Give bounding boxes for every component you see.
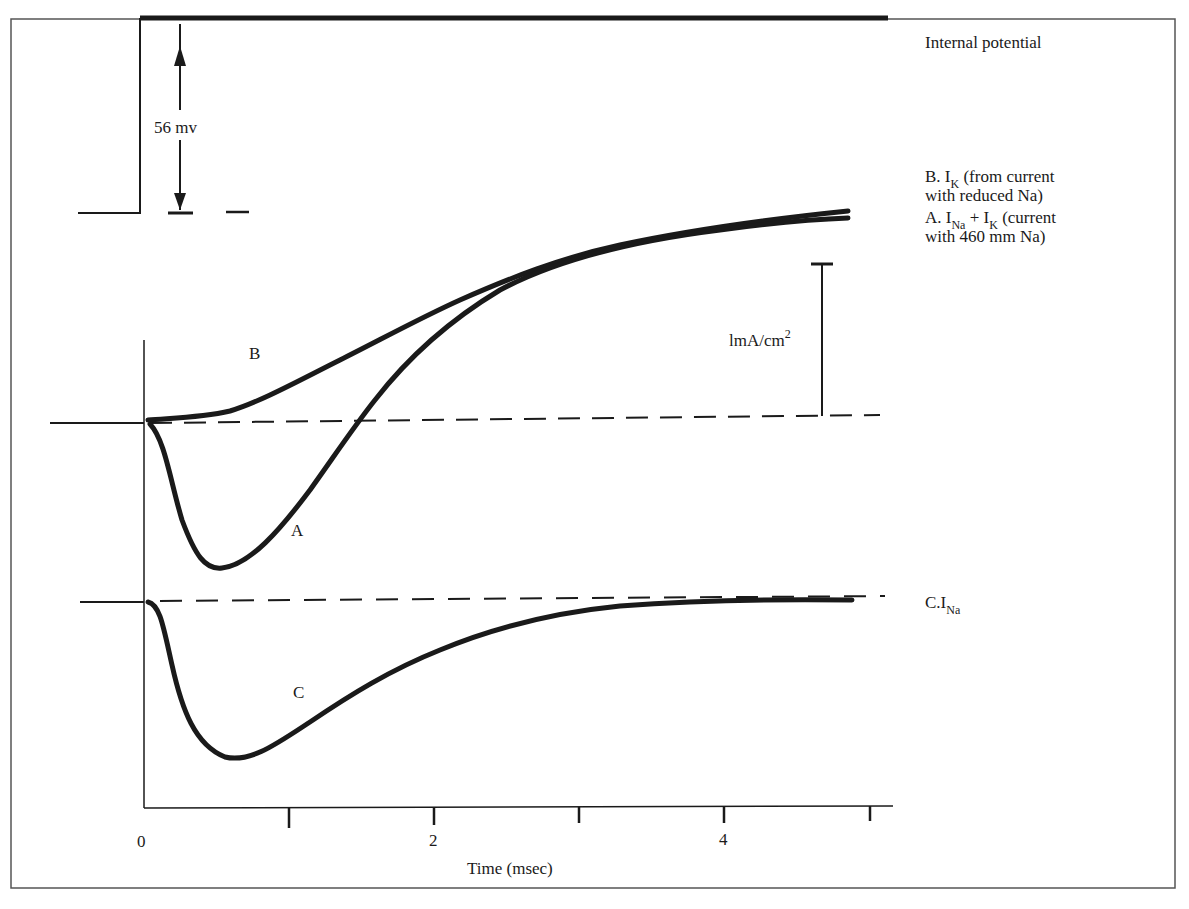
svg-text:with 460 mm Na): with 460 mm Na) [925, 227, 1045, 246]
curve-b-label: B [249, 344, 260, 363]
figure-frame [11, 19, 1175, 888]
current-scale-bar [811, 264, 833, 416]
svg-text:C.INa: C.INa [925, 593, 961, 617]
curve-a-ina-plus-ik [150, 218, 848, 568]
legend-b: B. IK (from current with reduced Na) [925, 167, 1055, 205]
curve-c-ina [148, 600, 852, 759]
curve-a-label: A [291, 521, 304, 540]
curve-c-label: C [293, 683, 304, 702]
x-tick-label-0: 0 [137, 832, 146, 851]
curve-b-ik [148, 211, 848, 420]
svg-text:with reduced Na): with reduced Na) [925, 186, 1043, 205]
x-axis-title: Time (msec) [467, 859, 553, 878]
internal-potential-label: Internal potential [925, 33, 1042, 52]
x-tick-label-4: 4 [719, 830, 728, 849]
x-axis [144, 806, 893, 828]
internal-potential-trace [78, 17, 888, 213]
legend-c: C.INa [925, 593, 961, 617]
scale-bar-label: lmA/cm2 [729, 327, 791, 350]
x-tick-label-2: 2 [429, 831, 438, 850]
step-amplitude-label: 56 mv [154, 118, 197, 137]
ionic-current-figure: Internal potential 56 mv B. IK (from cur… [0, 0, 1189, 909]
legend-a: A. INa + IK (current with 460 mm Na) [925, 208, 1056, 246]
